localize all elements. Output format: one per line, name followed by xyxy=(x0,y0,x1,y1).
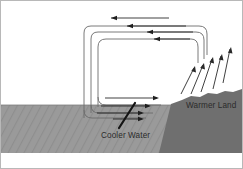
cooler-water-label: Cooler Water xyxy=(101,131,150,140)
warmer-land-label: Warmer Land xyxy=(186,101,237,110)
lower-margin xyxy=(1,153,242,168)
sea-breeze-diagram: Warmer Land Cooler Water xyxy=(1,1,242,168)
figure-frame: Warmer Land Cooler Water xyxy=(0,0,243,169)
